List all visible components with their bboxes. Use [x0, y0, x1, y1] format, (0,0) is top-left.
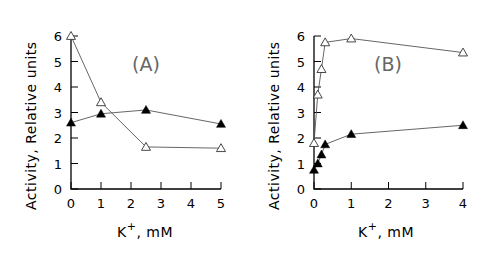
panel-a-ylabel: Activity, Relative units: [23, 41, 39, 210]
series-line: [314, 125, 463, 170]
figure: 0123456012345 (A) K+, mM Activity, Relat…: [0, 0, 495, 255]
open-triangle-marker-icon: [347, 34, 356, 42]
open-triangle-marker-icon: [97, 98, 106, 106]
panel-a: 0123456012345 (A) K+, mM Activity, Relat…: [23, 29, 226, 240]
open-triangle-marker-icon: [317, 65, 326, 73]
panel-a-series: [67, 32, 226, 152]
y-tick-label: 5: [54, 55, 62, 70]
x-tick-label: 2: [127, 196, 135, 211]
x-tick-label: 0: [310, 196, 318, 211]
x-tick-label: 1: [97, 196, 105, 211]
y-tick-label: 3: [297, 106, 305, 121]
open-triangle-marker-icon: [310, 139, 319, 147]
filled-triangle-marker-icon: [459, 121, 468, 129]
y-tick-label: 5: [297, 55, 305, 70]
panel-a-label: (A): [132, 53, 160, 75]
y-tick-label: 1: [54, 157, 62, 172]
y-tick-label: 1: [297, 157, 305, 172]
x-tick-label: 4: [459, 196, 467, 211]
panel-b-xlabel: K+, mM: [358, 220, 414, 240]
y-tick-label: 4: [54, 80, 62, 95]
filled-triangle-marker-icon: [317, 150, 326, 158]
y-tick-label: 3: [54, 106, 62, 121]
filled-triangle-marker-icon: [321, 140, 330, 148]
panel-a-xlabel: K+, mM: [117, 220, 173, 240]
x-tick-label: 0: [67, 196, 75, 211]
x-tick-label: 1: [347, 196, 355, 211]
x-tick-label: 3: [157, 196, 165, 211]
x-tick-label: 2: [384, 196, 392, 211]
y-tick-label: 0: [297, 182, 305, 197]
y-tick-label: 6: [297, 29, 305, 44]
y-tick-label: 2: [54, 131, 62, 146]
filled-triangle-marker-icon: [142, 105, 151, 113]
panel-b: 012345601234 (B) K+, mM Activity, Relati…: [266, 29, 468, 240]
x-tick-label: 3: [422, 196, 430, 211]
panel-b-label: (B): [374, 53, 402, 75]
open-triangle-marker-icon: [67, 32, 76, 40]
y-tick-label: 0: [54, 182, 62, 197]
y-tick-label: 4: [297, 80, 305, 95]
open-triangle-marker-icon: [217, 144, 226, 152]
panel-b-ylabel: Activity, Relative units: [266, 41, 282, 210]
y-tick-label: 2: [297, 131, 305, 146]
y-tick-label: 6: [54, 29, 62, 44]
x-tick-label: 5: [217, 196, 225, 211]
x-tick-label: 4: [187, 196, 195, 211]
